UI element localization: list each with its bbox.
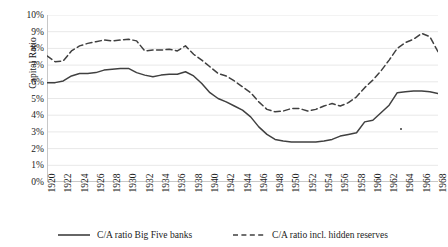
y-tick-label: 6% bbox=[6, 77, 44, 87]
legend-item-solid: C/A ratio Big Five banks bbox=[57, 230, 192, 240]
x-tick-label: 1946 bbox=[259, 163, 269, 203]
chart-legend: C/A ratio Big Five banks C/A ratio incl.… bbox=[0, 226, 445, 244]
series-svg bbox=[47, 15, 438, 182]
legend-swatch-solid-line bbox=[57, 231, 91, 239]
x-tick-label: 1920 bbox=[47, 163, 57, 203]
x-tick-label: 1964 bbox=[405, 163, 415, 203]
x-tick-label: 1940 bbox=[210, 163, 220, 203]
x-tick-label: 1944 bbox=[243, 163, 253, 203]
x-tick-label: 1928 bbox=[112, 163, 122, 203]
x-tick-label: 1968 bbox=[438, 163, 448, 203]
x-tick-label: 1958 bbox=[357, 163, 367, 203]
y-tick-label: 4% bbox=[6, 110, 44, 120]
stray-mark bbox=[400, 128, 402, 130]
x-tick-label: 1926 bbox=[96, 163, 106, 203]
x-tick-label: 1960 bbox=[373, 163, 383, 203]
x-tick-label: 1954 bbox=[324, 163, 334, 203]
y-tick-label: 3% bbox=[6, 127, 44, 137]
x-tick-label: 1936 bbox=[177, 163, 187, 203]
x-tick-label: 1956 bbox=[340, 163, 350, 203]
x-tick-label: 1966 bbox=[422, 163, 432, 203]
legend-item-dashed: C/A ratio incl. hidden reserves bbox=[232, 230, 388, 240]
y-tick-label: 9% bbox=[6, 27, 44, 37]
x-tick-label: 1938 bbox=[194, 163, 204, 203]
x-tick-label: 1934 bbox=[161, 163, 171, 203]
legend-label-big-five: C/A ratio Big Five banks bbox=[97, 230, 192, 240]
x-tick-label: 1930 bbox=[128, 163, 138, 203]
y-tick-label: 1% bbox=[6, 160, 44, 170]
legend-label-hidden-reserves: C/A ratio incl. hidden reserves bbox=[272, 230, 388, 240]
plot-area bbox=[47, 15, 438, 182]
x-tick-label: 1922 bbox=[63, 163, 73, 203]
y-axis-tick-labels: 10%9%8%7%6%5%4%3%2%1%0% bbox=[6, 0, 44, 195]
y-tick-label: 8% bbox=[6, 43, 44, 53]
x-tick-label: 1924 bbox=[80, 163, 90, 203]
y-tick-label: 5% bbox=[6, 94, 44, 104]
x-tick-label: 1952 bbox=[308, 163, 318, 203]
x-tick-label: 1950 bbox=[291, 163, 301, 203]
y-tick-label: 2% bbox=[6, 144, 44, 154]
x-tick-label: 1962 bbox=[389, 163, 399, 203]
x-tick-label: 1948 bbox=[275, 163, 285, 203]
x-axis-tick-labels: 1920192219241926192819301932193419361938… bbox=[47, 183, 438, 221]
series-line-1 bbox=[47, 68, 438, 141]
legend-swatch-dashed-line bbox=[232, 231, 266, 239]
x-tick-label: 1932 bbox=[145, 163, 155, 203]
x-tick-label: 1942 bbox=[226, 163, 236, 203]
series-line-2 bbox=[47, 33, 438, 111]
y-tick-label: 10% bbox=[6, 10, 44, 20]
y-tick-label: 7% bbox=[6, 60, 44, 70]
y-tick-label: 0% bbox=[6, 177, 44, 187]
